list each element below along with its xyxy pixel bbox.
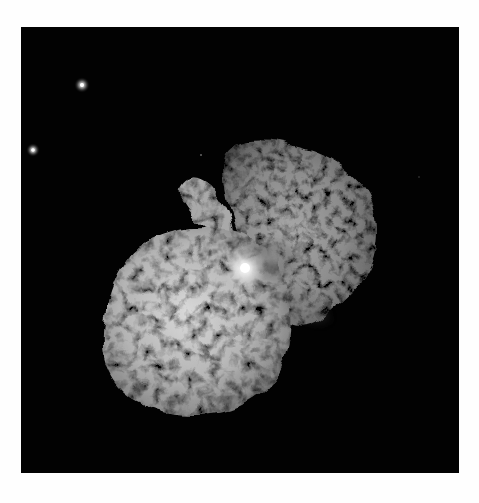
nebula-illustration	[21, 27, 459, 473]
image-frame: Bipolar nebula with two bright lobes aro…	[0, 0, 479, 503]
central-star	[223, 246, 267, 290]
background-stars	[26, 77, 420, 178]
nebula-photo: Bipolar nebula with two bright lobes aro…	[21, 27, 459, 473]
